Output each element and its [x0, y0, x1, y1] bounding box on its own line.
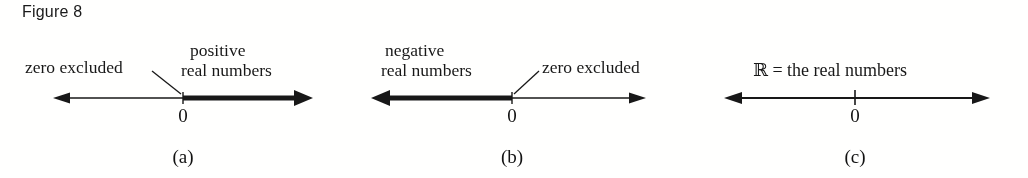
panel-b: negative real numbers zero excluded 0 (b…	[343, 0, 686, 178]
right-arrowhead-icon	[629, 93, 646, 104]
leader-line-zero-excluded	[514, 71, 539, 94]
positive-real-numbers-label-line1: positive	[190, 40, 245, 60]
left-arrowhead-icon	[371, 90, 390, 106]
positive-real-numbers-label-line2: real numbers	[181, 60, 272, 80]
panel-a: zero excluded positive real numbers 0 (a…	[0, 0, 343, 178]
left-arrowhead-icon	[53, 93, 70, 104]
zero-label: 0	[835, 106, 875, 126]
zero-label: 0	[163, 106, 203, 126]
panel-a-sub-label: (a)	[153, 146, 213, 167]
negative-real-numbers-label-line1: negative	[385, 40, 444, 60]
negative-real-numbers-label-line2: real numbers	[381, 60, 472, 80]
figure-8-number-lines: Figure 8 zero excluded positive real num…	[0, 0, 1028, 178]
panel-b-sub-label: (b)	[482, 146, 542, 167]
right-arrowhead-icon	[294, 90, 313, 106]
zero-label: 0	[492, 106, 532, 126]
left-arrowhead-icon	[724, 92, 742, 104]
right-arrowhead-icon	[972, 92, 990, 104]
real-numbers-set-label: ℝ = the real numbers	[753, 60, 907, 80]
zero-excluded-label: zero excluded	[542, 57, 640, 77]
zero-excluded-label: zero excluded	[25, 57, 123, 77]
panel-c: ℝ = the real numbers 0 (c)	[686, 0, 1028, 178]
panel-c-sub-label: (c)	[825, 146, 885, 167]
leader-line-zero-excluded	[152, 71, 181, 94]
